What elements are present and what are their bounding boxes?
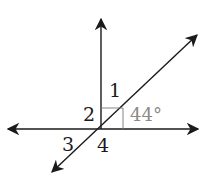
right-angle-marker bbox=[101, 108, 123, 129]
given-angle-label: 44° bbox=[130, 104, 162, 125]
angle-2-label: 2 bbox=[83, 103, 95, 125]
angle-4-label: 4 bbox=[97, 134, 109, 156]
angle-3-label: 3 bbox=[62, 133, 74, 155]
angle-1-label: 1 bbox=[109, 79, 121, 101]
angle-diagram: 1 2 3 4 44° bbox=[0, 0, 222, 177]
